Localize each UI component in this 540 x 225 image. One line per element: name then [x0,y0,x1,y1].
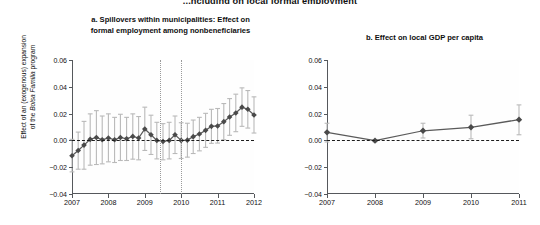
x-axis-tick [72,194,73,198]
error-bars [70,88,257,172]
data-point-marker [130,134,136,140]
y-axis-label-pre: of the [29,111,36,129]
x-axis-tick [327,194,328,198]
vertical-reference-line [181,60,182,194]
zero-reference-line [72,140,254,141]
y-axis-tick-label: −0.02 [304,164,322,171]
y-axis-tick-label: 0.04 [53,83,67,90]
panel-a-y-axis-label: Effect of an (exogenous) expansion of th… [19,12,37,162]
y-axis-tick-label: −0.02 [49,164,67,171]
vertical-reference-line [160,60,161,194]
x-axis-tick [254,194,255,198]
x-axis-tick-label: 2010 [173,198,189,207]
x-axis-tick [519,194,520,198]
y-axis-tick-label: 0.02 [53,110,67,117]
x-axis-tick-label: 2009 [137,198,153,207]
y-axis-tick [69,60,73,61]
y-axis-label-line2: of the Bolsa Familia program [28,12,37,162]
y-axis-tick [324,87,328,88]
x-axis-tick-label: 2007 [319,198,335,207]
zero-reference-line [327,140,519,141]
y-axis-tick [69,87,73,88]
x-axis-tick [375,194,376,198]
x-axis-tick-label: 2008 [367,198,383,207]
y-axis-tick [69,114,73,115]
y-axis-tick-label: 0.00 [53,137,67,144]
x-axis-tick-label: 2012 [246,198,262,207]
figure-master-title: ...ncluding on local formal employment [0,0,540,4]
y-axis-tick [324,60,328,61]
panel-a-title: a. Spillovers within municipalities: Eff… [58,15,283,36]
panel-b-title: b. Effect on local GDP per capita [322,33,527,44]
panel-a-plot: −0.04−0.020.000.020.040.0620072008200920… [72,60,254,194]
y-axis-tick-label: 0.04 [308,83,322,90]
data-point-marker [197,131,203,137]
panel-b-plot: −0.04−0.020.000.020.040.0620072008200920… [327,60,519,194]
x-axis-tick [181,194,182,198]
x-axis-tick-label: 2007 [64,198,80,207]
y-axis-tick-label: 0.06 [308,57,322,64]
y-axis-tick [69,167,73,168]
x-axis-tick [108,194,109,198]
y-axis-tick-label: 0.06 [53,57,67,64]
x-axis-tick-label: 2008 [100,198,116,207]
panel-a-title-line1: a. Spillovers within municipalities: Eff… [58,15,283,26]
x-axis-tick [145,194,146,198]
data-point-marker [324,129,330,135]
y-axis-tick-label: −0.04 [304,191,322,198]
y-axis-tick [324,114,328,115]
x-axis-tick-label: 2011 [511,198,526,207]
x-axis-tick-label: 2011 [210,198,225,207]
y-axis-tick-label: −0.04 [49,191,67,198]
panel-a-title-line2: formal employment among nonbeneficiaries [58,26,283,37]
x-axis-tick-label: 2009 [415,198,431,207]
y-axis-tick-label: 0.00 [308,137,322,144]
data-point-marker [420,128,426,134]
y-axis-label-post: program [29,45,36,71]
data-point-marker [190,134,196,140]
x-axis-tick [218,194,219,198]
x-axis-tick [423,194,424,198]
y-axis-tick [324,167,328,168]
panel-b-data-layer [327,60,519,194]
x-axis-tick [471,194,472,198]
y-axis-label-program-name: Bolsa Familia [29,71,36,111]
panel-a-data-layer [72,60,254,194]
data-point-marker [468,124,474,130]
y-axis-tick-label: 0.02 [308,110,322,117]
data-point-marker [516,116,522,122]
y-axis-label-line1: Effect of an (exogenous) expansion [19,12,28,162]
x-axis-tick-label: 2010 [463,198,479,207]
figure-root: ...ncluding on local formal employment a… [0,0,540,225]
